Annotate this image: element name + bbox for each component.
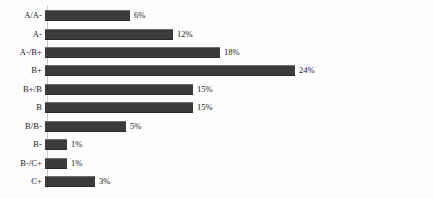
category-label: A/A- [0, 10, 45, 20]
bar-value-label: 6% [134, 10, 145, 20]
category-label: B+ [0, 65, 45, 75]
category-label: B+/B [0, 84, 45, 94]
bar [45, 47, 220, 58]
bar-row: B- 1% [0, 136, 434, 152]
bar-track: 5% [45, 118, 434, 134]
bar [45, 65, 295, 76]
bar-chart: A/A- 6% A- 12% A-/B+ 18% B+ 24% [0, 0, 434, 198]
bar [45, 121, 126, 132]
bar-track: 18% [45, 44, 434, 60]
bar-row: B+/B 15% [0, 81, 434, 97]
bar-track: 1% [45, 136, 434, 152]
bar-value-label: 1% [71, 158, 82, 168]
bar-row: B/B- 5% [0, 118, 434, 134]
bar-value-label: 15% [197, 102, 213, 112]
bar-track: 15% [45, 81, 434, 97]
bar-value-label: 1% [71, 139, 82, 149]
category-label: B- [0, 139, 45, 149]
bar-track: 6% [45, 7, 434, 23]
bar-value-label: 12% [177, 29, 193, 39]
bar-value-label: 5% [130, 121, 141, 131]
bar [45, 29, 173, 40]
category-label: B-/C+ [0, 158, 45, 168]
bar [45, 158, 67, 169]
category-label: A-/B+ [0, 47, 45, 57]
category-label: C+ [0, 176, 45, 186]
bar-value-label: 3% [99, 176, 110, 186]
bar-row: A-/B+ 18% [0, 44, 434, 60]
category-label: B [0, 102, 45, 112]
bar-track: 1% [45, 155, 434, 171]
bar-track: 15% [45, 99, 434, 115]
bar-value-label: 18% [224, 47, 240, 57]
bar-row: B 15% [0, 99, 434, 115]
bar-track: 24% [45, 62, 434, 78]
bar-track: 3% [45, 173, 434, 189]
bar [45, 176, 95, 187]
category-label: B/B- [0, 121, 45, 131]
bar [45, 102, 193, 113]
bar-row: B-/C+ 1% [0, 155, 434, 171]
bar-row: C+ 3% [0, 173, 434, 189]
bar [45, 139, 67, 150]
bar [45, 84, 193, 95]
bar-track: 12% [45, 26, 434, 42]
plot-area: A/A- 6% A- 12% A-/B+ 18% B+ 24% [0, 0, 434, 198]
bar-value-label: 24% [299, 65, 315, 75]
category-label: A- [0, 29, 45, 39]
bar-value-label: 15% [197, 84, 213, 94]
bar-row: A/A- 6% [0, 7, 434, 23]
bar-row: A- 12% [0, 26, 434, 42]
bar-row: B+ 24% [0, 62, 434, 78]
bar [45, 10, 130, 21]
